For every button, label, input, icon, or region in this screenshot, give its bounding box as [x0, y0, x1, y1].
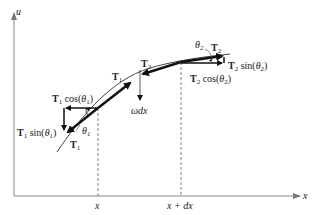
t2-sin-label: T2 sin(θ2) [228, 60, 267, 73]
theta2-label: θ2 [195, 39, 204, 52]
t1-lower-label: T1 [70, 139, 81, 152]
t2-right-vector [181, 56, 222, 62]
theta2-marker [209, 59, 213, 62]
x-marker-label: x [94, 200, 100, 211]
load-label: ωdx [131, 105, 148, 116]
t1-cos-label: T1 cos(θ1) [52, 93, 93, 106]
y-axis-label: u [16, 6, 21, 17]
string-tension-diagram: u x x x + dx T1 T1 T1 cos(θ1) T1 sin(θ1)… [0, 0, 318, 215]
x-axis-label: x [302, 190, 308, 201]
t2-cos-label: T2 cos(θ2) [190, 73, 231, 86]
t1-upper-label: T1 [112, 71, 123, 84]
diagram-canvas: u x x x + dx T1 T1 T1 cos(θ1) T1 sin(θ1)… [0, 0, 318, 215]
t2-right-label: T2 [211, 42, 222, 55]
theta1-label: θ1 [82, 125, 90, 138]
x-plus-dx-marker-label: x + dx [166, 200, 193, 211]
t1-sin-label: T1 sin(θ1) [17, 127, 56, 140]
